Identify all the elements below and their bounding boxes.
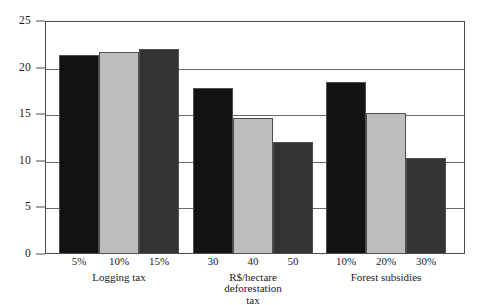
y-axis-tick-mark [36, 207, 45, 208]
y-axis-tick-mark [36, 21, 45, 22]
y-axis-tick-mark [36, 160, 45, 161]
bar [406, 158, 446, 254]
group-label: Forest subsidies [351, 272, 422, 283]
category-tick-label: 10% [336, 256, 356, 267]
bar [139, 49, 179, 254]
scan-artifact [54, 1, 90, 7]
bar [193, 88, 233, 254]
bar-chart: 0510152025 5%10%15%30405010%20%30% Loggi… [0, 0, 488, 305]
y-axis-tick-label: 20 [19, 62, 31, 74]
category-tick-label: 5% [72, 256, 87, 267]
group-label: R$/hectaredeforestationtax [224, 272, 281, 305]
group-labels: Logging taxR$/hectaredeforestationtaxFor… [45, 272, 465, 305]
category-tick-label: 30 [208, 256, 219, 267]
category-tick-label: 15% [149, 256, 169, 267]
group-label-line: tax [224, 295, 281, 305]
y-axis-tick-label: 25 [19, 15, 31, 27]
group-label: Logging tax [92, 272, 145, 283]
category-tick-label: 50 [288, 256, 299, 267]
bar [233, 118, 273, 254]
y-axis-tick-label: 0 [25, 248, 31, 260]
y-axis-tick-mark [36, 114, 45, 115]
y-axis-tick-mark [36, 67, 45, 68]
group-label-line: Logging tax [92, 272, 145, 283]
category-tick-label: 40 [248, 256, 259, 267]
bar [326, 82, 366, 254]
bar [366, 113, 406, 254]
bar [59, 55, 99, 254]
category-tick-label: 10% [109, 256, 129, 267]
y-axis-tick-label: 5 [25, 202, 31, 214]
y-axis-tick-label: 10 [19, 155, 31, 167]
bars-layer [45, 21, 465, 254]
bar [273, 142, 313, 254]
group-label-line: Forest subsidies [351, 272, 422, 283]
y-axis-tick-label: 15 [19, 108, 31, 120]
y-axis: 0510152025 [0, 0, 45, 305]
category-tick-label: 30% [416, 256, 436, 267]
bar [99, 52, 139, 254]
category-tick-label: 20% [376, 256, 396, 267]
y-axis-tick-mark [36, 254, 45, 255]
